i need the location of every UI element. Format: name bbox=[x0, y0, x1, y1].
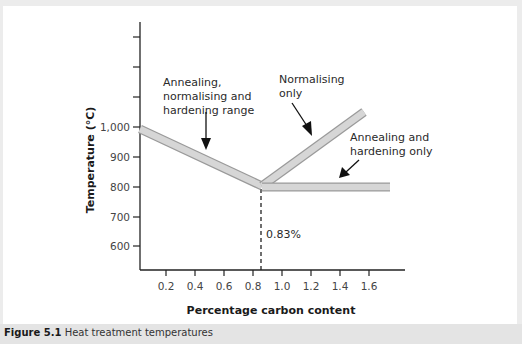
arrow-ah-shaft bbox=[346, 160, 359, 172]
annot-norm-line2: only bbox=[279, 87, 303, 100]
x-tick-1-4: 1.4 bbox=[332, 280, 349, 292]
y-tick-700: 700 bbox=[110, 211, 130, 223]
arrow-diagonal-icon bbox=[302, 121, 312, 136]
x-ticks bbox=[166, 270, 369, 276]
annotation-range: Annealing, normalising and hardening ran… bbox=[163, 76, 254, 150]
y-tick-1000: 1,000 bbox=[100, 121, 130, 133]
caption-text: Heat treatment temperatures bbox=[65, 327, 213, 338]
y-tick-900: 900 bbox=[110, 151, 130, 163]
annotation-normalising: Normalising only bbox=[279, 73, 345, 136]
caption-label: Figure 5.1 bbox=[4, 327, 61, 338]
figure-caption: Figure 5.1 Heat treatment temperatures bbox=[4, 327, 213, 338]
annot-range-line2: normalising and bbox=[163, 90, 252, 103]
annot-ah-line1: Annealing and bbox=[350, 131, 429, 144]
annotation-annealing-hardening: Annealing and hardening only bbox=[339, 131, 433, 178]
x-tick-1-0: 1.0 bbox=[274, 280, 291, 292]
y-axis-title: Temperature (°C) bbox=[84, 107, 97, 214]
x-tick-0-4: 0.4 bbox=[187, 280, 204, 292]
annot-range-line3: hardening range bbox=[163, 104, 254, 117]
x-axis-title: Percentage carbon content bbox=[187, 304, 356, 317]
eutectoid-label: 0.83% bbox=[266, 228, 301, 241]
heat-treatment-chart: 1,000 900 800 700 600 0.2 0.4 0.6 0.8 1.… bbox=[0, 0, 522, 344]
annot-range-line1: Annealing, bbox=[163, 76, 222, 89]
band-annealing-normalising-hardening bbox=[140, 129, 262, 186]
y-tick-labels: 1,000 900 800 700 600 bbox=[100, 121, 130, 252]
annot-ah-line2: hardening only bbox=[350, 145, 433, 158]
y-ticks bbox=[133, 37, 140, 246]
x-tick-0-8: 0.8 bbox=[245, 280, 262, 292]
x-tick-1-6: 1.6 bbox=[361, 280, 378, 292]
arrow-down-icon bbox=[201, 138, 211, 150]
y-tick-600: 600 bbox=[110, 240, 130, 252]
arrow-diagonal-down-left-icon bbox=[339, 167, 350, 178]
annot-norm-line1: Normalising bbox=[279, 73, 345, 86]
x-tick-0-6: 0.6 bbox=[216, 280, 233, 292]
x-tick-1-2: 1.2 bbox=[303, 280, 320, 292]
x-tick-0-2: 0.2 bbox=[158, 280, 175, 292]
arrow-normalising-shaft bbox=[292, 103, 307, 126]
x-tick-labels: 0.2 0.4 0.6 0.8 1.0 1.2 1.4 1.6 bbox=[158, 280, 378, 292]
y-tick-800: 800 bbox=[110, 181, 130, 193]
